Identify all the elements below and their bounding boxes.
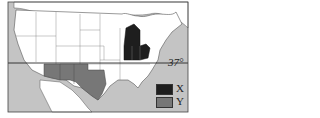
legend-label-y: Y bbox=[176, 96, 184, 107]
legend-swatch-y bbox=[156, 97, 173, 108]
legend-label-x: X bbox=[176, 83, 184, 94]
latitude-label: 37° bbox=[168, 57, 183, 68]
legend-swatch-x bbox=[156, 84, 173, 95]
